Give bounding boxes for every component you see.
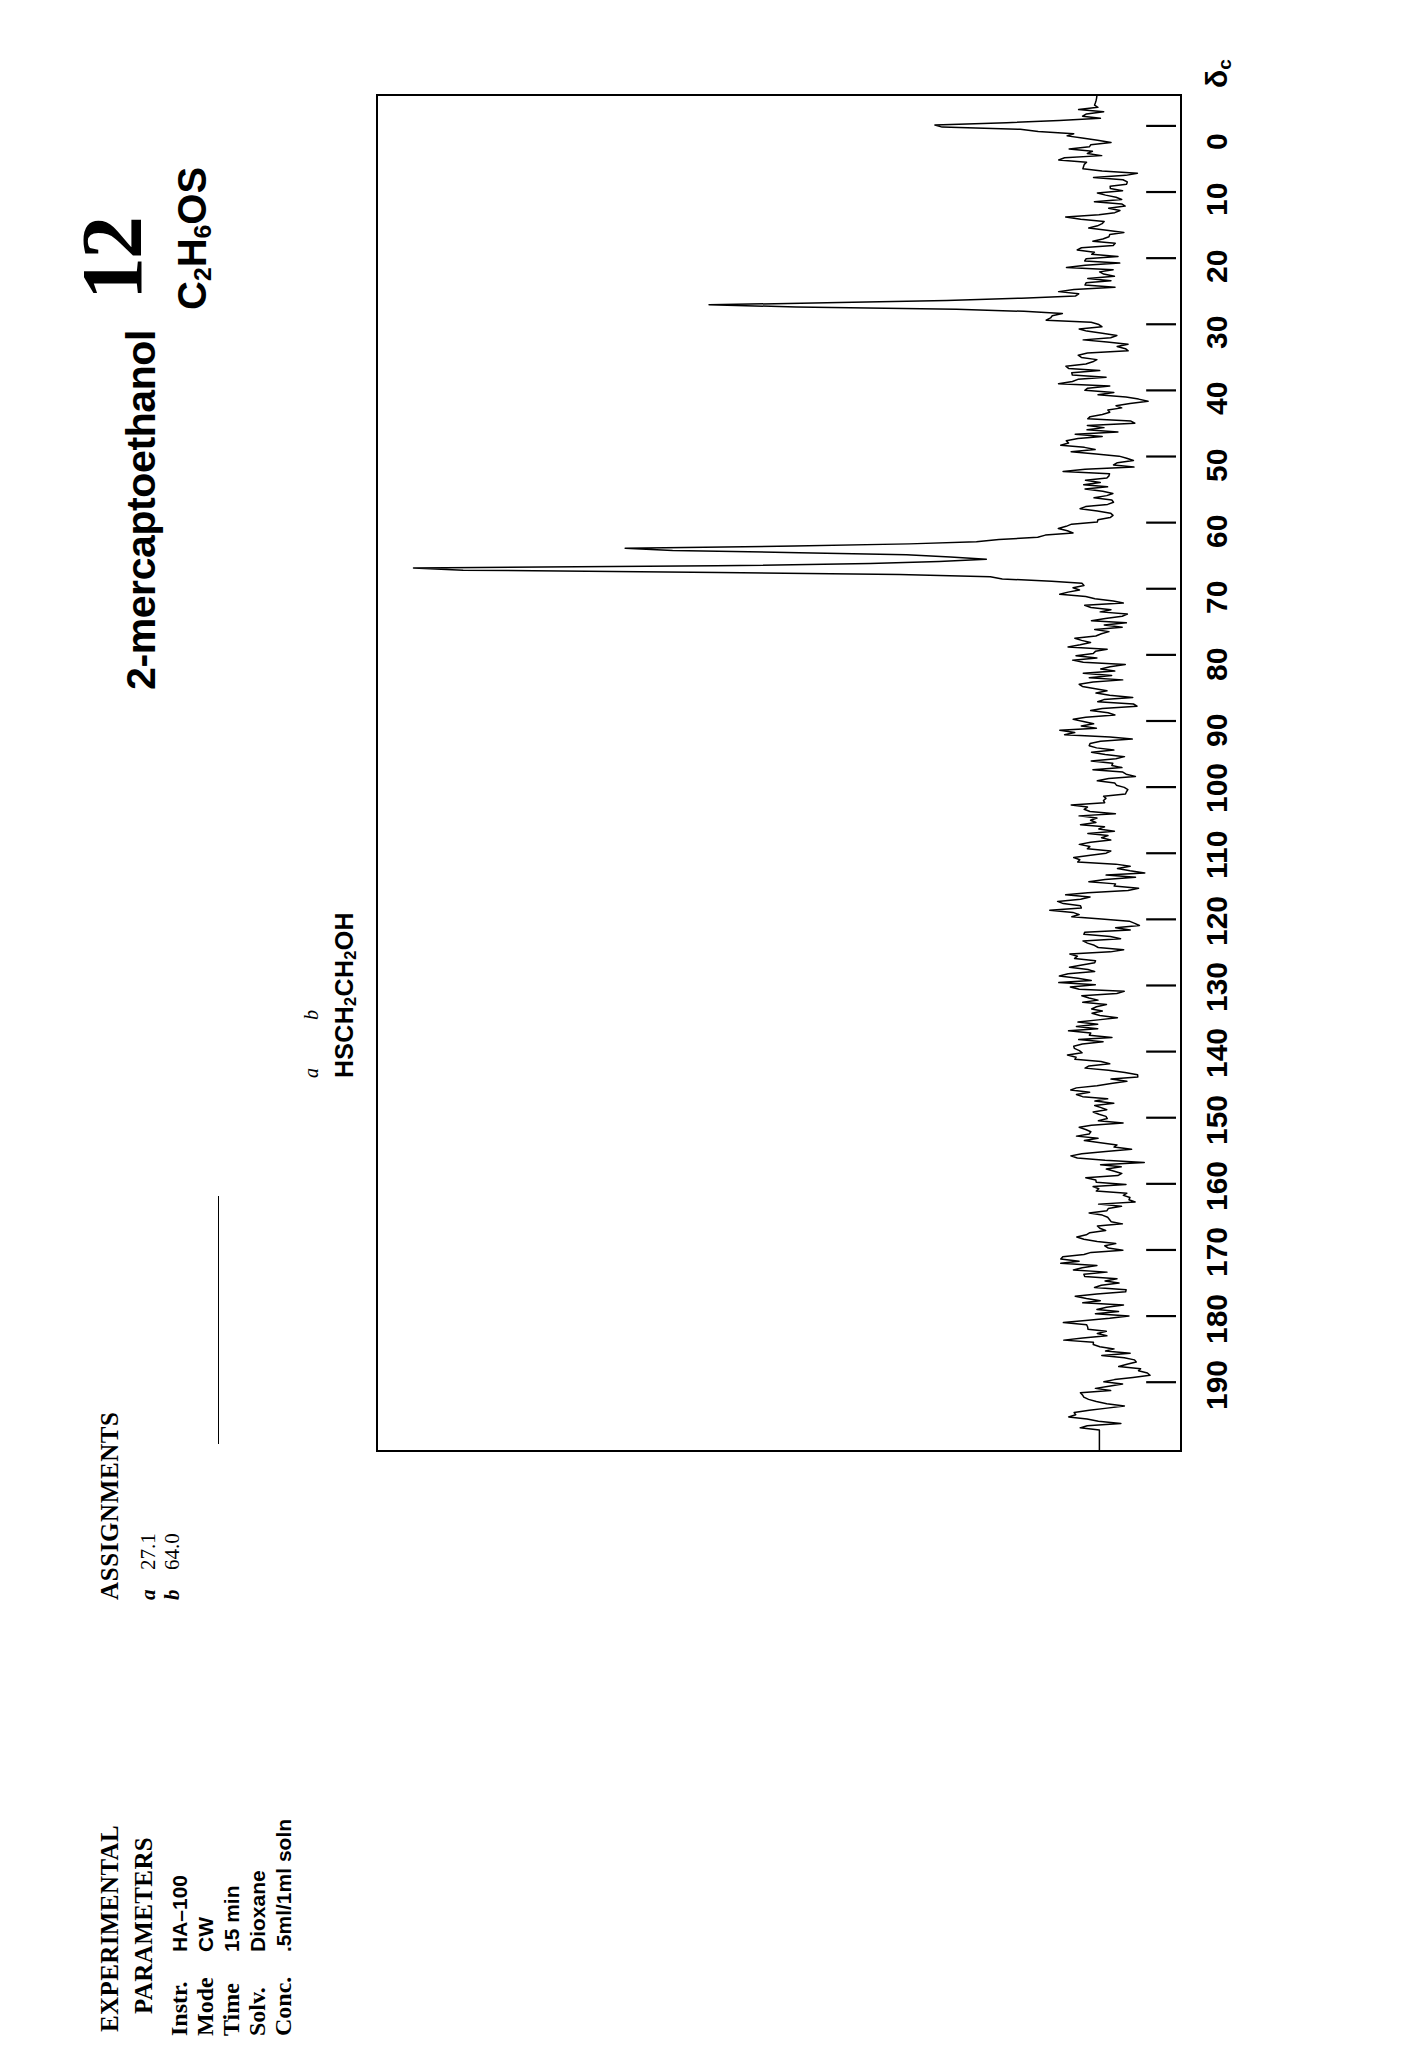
page-number: 12 [62, 218, 162, 300]
axis-tick-label: 50 [1200, 448, 1234, 481]
axis-tick-label: 180 [1200, 1294, 1234, 1344]
axis-tick-label: 120 [1200, 896, 1234, 946]
param-value: HA–100 [168, 1875, 191, 1952]
param-value: .5ml/1ml soln [272, 1819, 295, 1952]
structure-label-b: b [300, 1010, 323, 1020]
assignment-label: a [136, 1570, 161, 1600]
assignment-label: b [160, 1570, 185, 1600]
experimental-heading-line1: EXPERIMENTAL [96, 1825, 124, 2032]
axis-tick-label: 110 [1200, 831, 1234, 879]
param-row-instr: Instr.HA–100 [166, 1875, 193, 2036]
param-value: 15 min [220, 1885, 243, 1952]
axis-tick-label: 100 [1200, 763, 1234, 813]
axis-tick-label: 0 [1200, 133, 1234, 150]
axis-tick-label: 70 [1200, 581, 1234, 614]
axis-tick-label: 40 [1200, 382, 1234, 415]
param-key: Time [218, 1952, 245, 2036]
axis-tick-label: 90 [1200, 713, 1234, 746]
param-row-solv: Solv.Dioxane [244, 1870, 271, 2036]
axis-tick-marks [1146, 126, 1176, 1382]
axis-tick-label: 10 [1200, 183, 1234, 216]
structure-carbon-labels: a b [300, 1010, 323, 1078]
axis-tick-label: 60 [1200, 515, 1234, 548]
experimental-heading-line2: PARAMETERS [130, 1837, 158, 2014]
assignments-heading: ASSIGNMENTS [96, 1411, 124, 1600]
spectrum-plot-frame [376, 94, 1182, 1452]
assignment-row: a27.1 [136, 1533, 161, 1600]
nmr-trace-path [414, 96, 1151, 1450]
axis-tick-label: 20 [1200, 249, 1234, 282]
section-divider [218, 1196, 219, 1444]
spectrum-trace [378, 96, 1180, 1450]
structural-formula: HSCH2CH2OH [330, 912, 360, 1078]
axis-tick-label: 130 [1200, 962, 1234, 1012]
assignment-shift: 27.1 [136, 1533, 160, 1570]
axis-tick-label: 80 [1200, 647, 1234, 680]
axis-tick-label: 140 [1200, 1028, 1234, 1078]
assignment-row: b64.0 [160, 1533, 185, 1600]
axis-tick-label: 150 [1200, 1095, 1234, 1145]
axis-tick-label: 170 [1200, 1227, 1234, 1277]
param-row-conc: Conc..5ml/1ml soln [270, 1819, 297, 2036]
molecular-formula: C2H6OS [170, 167, 217, 310]
param-key: Conc. [270, 1952, 297, 2036]
param-key: Solv. [244, 1952, 271, 2036]
axis-tick-label: 190 [1200, 1360, 1234, 1410]
axis-tick-label: 30 [1200, 316, 1234, 349]
assignment-shift: 64.0 [160, 1533, 184, 1570]
param-key: Mode [192, 1952, 219, 2036]
structure-label-a: a [300, 1068, 323, 1078]
param-key: Instr. [166, 1952, 193, 2036]
axis-symbol-delta-c: δc [1200, 59, 1236, 88]
axis-tick-label: 160 [1200, 1161, 1234, 1211]
param-row-mode: ModeCW [192, 1917, 219, 2036]
page-title: 2-mercaptoethanol [118, 330, 165, 690]
param-value: CW [194, 1917, 217, 1952]
param-row-time: Time15 min [218, 1885, 245, 2036]
param-value: Dioxane [246, 1870, 269, 1952]
